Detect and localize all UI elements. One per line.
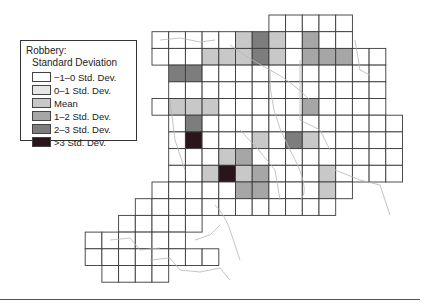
grid-cell [202,132,219,149]
grid-cell [302,165,319,182]
grid-cell [202,115,219,132]
grid-cell [319,15,336,32]
grid-cell [319,65,336,82]
grid-cell [369,149,386,166]
grid-cell [202,48,219,65]
grid-cell [152,48,169,65]
grid-cell [286,199,303,216]
grid-cell [369,165,386,182]
grid-cell [236,165,253,182]
grid-cell [319,165,336,182]
grid-cell [319,99,336,116]
grid-cell [219,99,236,116]
grid-cell [135,215,152,232]
grid-cell [386,149,403,166]
grid-cell [185,249,202,266]
legend-item: 1–2 Std. Dev. [32,110,131,122]
grid-cell [85,249,102,266]
grid-cell [352,165,369,182]
grid-cell [269,115,286,132]
grid-cell [269,149,286,166]
grid-cell [252,65,269,82]
grid-cell [336,65,353,82]
bottom-rule [0,299,420,300]
grid-cell [202,32,219,49]
grid-cell [302,32,319,49]
grid-cell [269,65,286,82]
grid-cell [386,115,403,132]
grid-cell [336,48,353,65]
grid-cell [135,199,152,216]
grid-cell [169,182,186,199]
grid-cell [219,165,236,182]
grid-cell [202,65,219,82]
grid-cell [352,82,369,99]
legend-label: 1–2 Std. Dev. [54,111,111,122]
grid-cell [85,232,102,249]
grid-cell [185,32,202,49]
swatch-gt3 [32,137,51,147]
grid-cell [169,165,186,182]
grid-cell [319,115,336,132]
grid-cell [352,99,369,116]
legend-item: −1–0 Std. Dev. [32,71,131,83]
legend-label: >3 Std. Dev. [54,137,106,148]
grid-cell [152,266,169,283]
grid-cell [219,82,236,99]
grid-cell [286,32,303,49]
legend-label: Mean [54,98,78,109]
grid-cell [169,115,186,132]
grid-cell [352,132,369,149]
grid-cell [185,149,202,166]
grid-cell [352,48,369,65]
grid-cell [236,65,253,82]
grid-cell [252,32,269,49]
grid-cell [185,199,202,216]
grid-cell [319,149,336,166]
grid-cell [319,199,336,216]
grid-cell [252,115,269,132]
grid-cell [336,182,353,199]
grid-cell [169,65,186,82]
grid-cell [302,149,319,166]
grid-cell [286,165,303,182]
grid-cell [135,232,152,249]
grid-cell [302,199,319,216]
swatch-0-1 [32,85,51,95]
legend-item: 0–1 Std. Dev. [32,84,131,96]
grid-cell [119,232,136,249]
grid-cell [119,249,136,266]
grid-cell [336,15,353,32]
grid-cell [152,215,169,232]
grid-cell [169,82,186,99]
grid-cell [236,199,253,216]
grid-cell [252,182,269,199]
grid-cell [319,48,336,65]
grid-cell [252,199,269,216]
grid-cell [152,199,169,216]
grid-cell [185,132,202,149]
grid-cell [302,48,319,65]
grid-cell [152,99,169,116]
grid-cell [185,115,202,132]
grid-cell [219,32,236,49]
grid-cell [336,99,353,116]
grid-cell [202,182,219,199]
grid-cell [269,199,286,216]
grid-cell [269,48,286,65]
grid-cell [236,99,253,116]
grid-cell [185,48,202,65]
grid-cell [102,266,119,283]
grid-cell [302,65,319,82]
grid-cell [302,115,319,132]
grid-cell [219,149,236,166]
grid-cell [252,149,269,166]
grid-cell [336,115,353,132]
grid-cell [269,165,286,182]
legend-item: 2–3 Std. Dev. [32,123,131,135]
swatch-mean [32,98,51,108]
grid-cell [319,182,336,199]
legend-label: −1–0 Std. Dev. [54,72,116,83]
grid-cell [169,32,186,49]
grid-cell [302,182,319,199]
